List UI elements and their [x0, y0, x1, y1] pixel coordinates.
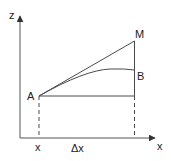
x-tick-label: x: [35, 141, 41, 153]
diagram-canvas: z x A M B x Δx: [0, 0, 171, 161]
delta-x-label: Δx: [71, 142, 84, 154]
z-axis-label: z: [9, 9, 15, 21]
point-b-label: B: [137, 70, 144, 82]
point-m-label: M: [135, 28, 144, 40]
curve-ab: [39, 69, 135, 96]
point-a-label: A: [27, 90, 35, 102]
x-axis-label: x: [157, 140, 163, 152]
